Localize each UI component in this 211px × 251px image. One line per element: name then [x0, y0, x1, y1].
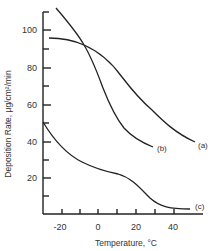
x-axis-title: Temperature, °C — [95, 238, 157, 248]
y-tick-label-80: 80 — [27, 63, 37, 73]
x-tick-label-20: 20 — [131, 222, 141, 232]
curve-label-a: (a) — [198, 141, 208, 150]
curve-label-b: (b) — [157, 144, 167, 153]
x-tick-label-40: 40 — [168, 222, 178, 232]
chart: 100 80 60 40 20 -20 0 20 40 Temperature,… — [0, 0, 211, 251]
y-tick-label-20: 20 — [27, 173, 37, 183]
x-axis — [43, 209, 203, 214]
curve-b — [56, 8, 153, 147]
curve-c — [43, 122, 190, 209]
y-tick-label-60: 60 — [27, 100, 37, 110]
curve-label-c: (c) — [195, 202, 205, 211]
y-axis — [43, 12, 51, 214]
y-tick-label-100: 100 — [22, 25, 37, 35]
x-tick-label-neg20: -20 — [53, 222, 66, 232]
y-tick-label-40: 40 — [27, 137, 37, 147]
x-tick-label-0: 0 — [95, 222, 100, 232]
y-axis-title: Deposition Rate, μg/cm²/min — [3, 70, 13, 178]
